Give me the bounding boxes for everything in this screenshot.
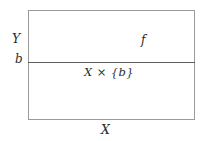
slice-height-label: b (15, 53, 23, 65)
vertical-axis-label: Y (12, 33, 20, 46)
slice-set-label: X × {b} (84, 67, 134, 79)
horizontal-axis-label: X (101, 124, 110, 137)
slice-line (28, 62, 195, 63)
map-label: f (141, 34, 145, 46)
product-space-diagram: Y b f X × {b} X (0, 0, 207, 141)
